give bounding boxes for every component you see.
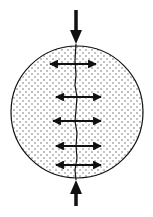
splitting-test-diagram (0, 0, 153, 217)
arrow-up-icon (70, 180, 82, 194)
arrow-down-icon (70, 30, 82, 44)
